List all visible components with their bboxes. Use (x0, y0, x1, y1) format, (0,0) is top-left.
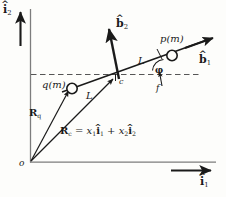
distance-label-L-left: L (86, 91, 93, 101)
point-label-origin: o (19, 159, 24, 168)
hat-mark-i1: ^ (198, 172, 206, 181)
distance-label-L-right: L (138, 56, 145, 66)
hat-mark-i2: ^ (1, 0, 9, 9)
hat-mark-b1: ^ (199, 50, 207, 59)
vector-label-b1-sub: 1 (207, 59, 211, 67)
b1-unit-vector-arrow (185, 38, 213, 48)
vector-label-Rq-sub: q (37, 112, 41, 119)
axis-label-i2: ^i2 (3, 4, 12, 17)
vector-label-b2-sub: 2 (124, 23, 128, 31)
axis-label-i1: ^i1 (200, 176, 209, 189)
hat-mark-eq-i2: ^ (127, 122, 134, 130)
equation-Rc-sub: c (68, 130, 71, 137)
equation-Rc: Rc = x1^i1 + x2^i2 (60, 126, 136, 137)
particle-q-marker (67, 83, 77, 93)
hat-mark-eq-i1: ^ (94, 122, 101, 130)
point-label-q: q(m) (42, 80, 66, 90)
hat-mark-b2: ^ (116, 14, 124, 23)
point-label-p: p(m) (160, 34, 184, 44)
equation-plus: + (107, 125, 115, 136)
point-label-c: c (119, 78, 123, 86)
vector-diagram-figure: ^i2 ^i1 ^b2 ^b1 p(m) q(m) c o L L φ f Rq… (0, 0, 226, 197)
particle-p-marker (167, 50, 177, 60)
vector-label-b2: ^b2 (116, 18, 128, 31)
vector-label-Rq: Rq (29, 108, 41, 119)
vector-label-b1: ^b1 (199, 54, 211, 67)
axis-label-i1-sub: 1 (204, 181, 208, 189)
equation-equals: = (75, 125, 83, 136)
angle-label-phi: φ (155, 66, 163, 75)
axis-label-i2-sub: 2 (7, 9, 11, 17)
diagram-canvas (0, 0, 226, 197)
b2-unit-vector-arrow (109, 29, 119, 79)
point-label-f: f (156, 84, 159, 93)
